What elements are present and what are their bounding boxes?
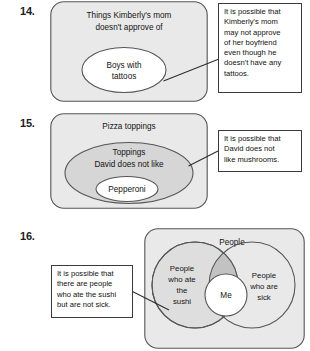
set-label-line: sick [257,293,271,302]
callout-box-16: It is possible that there are people who… [51,265,133,318]
callout-line: It is possible that [224,7,297,17]
problem-number-14: 14. [20,5,35,17]
worksheet-page: 14. Things Kimberly's mom doesn't approv… [0,0,310,351]
callout-box-15: It is possible that David does not like … [218,130,302,172]
callout-line: who ate the sushi [57,290,128,300]
set-boys-with-tattoos [82,48,166,93]
set-label-line: doesn't approve of [95,23,163,32]
set-label-line: Me [220,291,232,300]
callout-line: but are not sick. [57,300,128,310]
callout-line: It is possible that [224,134,297,144]
set-label-line: Pizza toppings [102,122,155,131]
callout-line: tattoos. [224,69,297,79]
venn-diagram-16: People People who ate the sushi People w… [144,228,305,349]
set-label-line: Toppings [113,148,146,157]
set-label-line: People [252,271,276,280]
set-label-line: tattoos [112,72,137,81]
set-label-line: who are [249,282,278,291]
set-label-line: Things Kimberly's mom [87,11,172,20]
callout-leader-line-16 [131,290,171,311]
venn-diagram-14: Things Kimberly's mom doesn't approve of… [50,1,208,102]
callout-line: It is possible that [57,269,128,279]
callout-line: like mushrooms. [224,155,297,165]
callout-line: even though he [224,48,297,58]
venn-diagram-15: Pizza toppings Toppings David does not l… [50,113,208,209]
callout-leader-line-15 [188,149,222,167]
callout-line: doesn't have any [224,58,297,68]
set-label-line: Pepperoni [108,185,146,194]
set-label-line: who ate [167,275,195,284]
problem-number-16: 16. [20,230,35,242]
callout-leader-line-14 [163,58,221,82]
callout-line: David does not [224,144,297,154]
set-label-line: People [170,264,194,273]
callout-line: there are people [57,279,128,289]
set-label-line: sushi [173,297,191,306]
callout-line: of her boyfriend [224,38,297,48]
problem-number-15: 15. [20,117,35,129]
callout-line: Kimberly's mom [224,17,297,27]
set-label-line: David does not like [94,160,164,169]
set-label-line: the [177,286,188,295]
callout-box-14: It is possible that Kimberly's mom may n… [218,3,302,93]
callout-line: may not approve [224,28,297,38]
set-label-line: Boys with [106,61,141,70]
